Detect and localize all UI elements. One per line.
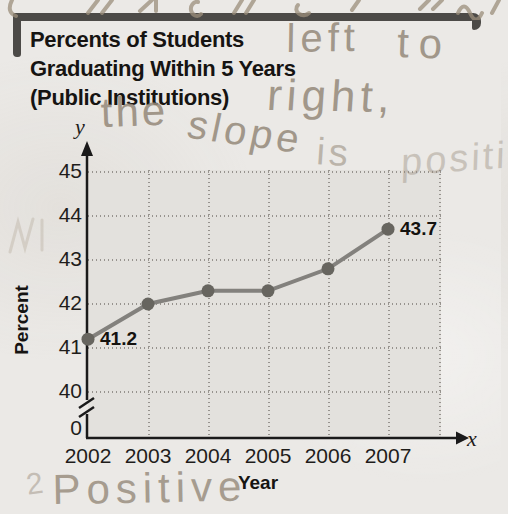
handwriting-word-positive-cutoff: positi	[400, 134, 508, 185]
y-tick-label-40: 40	[36, 379, 82, 403]
data-point-2003	[142, 298, 155, 311]
y-tick-label-41: 41	[36, 335, 82, 359]
data-point-2002	[82, 333, 95, 346]
data-point-2004	[202, 284, 215, 297]
chart-title-line-2: Graduating Within 5 Years	[30, 54, 296, 83]
x-axis-symbol: x	[467, 426, 477, 452]
y-axis-symbol: y	[75, 114, 85, 140]
handwriting-word-to: to	[396, 19, 453, 69]
x-axis	[86, 432, 469, 445]
x-tick-label-2006: 2006	[296, 444, 360, 468]
data-line	[88, 229, 388, 339]
handwriting-word-left: left	[286, 15, 360, 61]
data-point-2006	[322, 262, 335, 275]
y-axis-arrowhead	[81, 141, 93, 156]
y-tick-label-45: 45	[36, 159, 82, 183]
handwriting-scribble-top	[0, 0, 501, 20]
point-label-2007: 43.7	[400, 218, 437, 240]
data-point-2005	[262, 284, 275, 297]
handwriting-scribble-left-margin	[2, 200, 62, 270]
data-point-2007	[382, 223, 395, 236]
handwriting-word-is: is	[315, 130, 353, 175]
point-label-2002: 41.2	[100, 328, 137, 350]
handwriting-word-positive-bottom: Positive	[52, 463, 248, 514]
y-tick-label-42: 42	[36, 291, 82, 315]
chart-title-line-1: Percents of Students	[30, 25, 296, 54]
handwriting-word-the: the	[100, 87, 169, 137]
origin-tick-label: 0	[36, 416, 82, 440]
x-tick-label-2007: 2007	[356, 444, 420, 468]
